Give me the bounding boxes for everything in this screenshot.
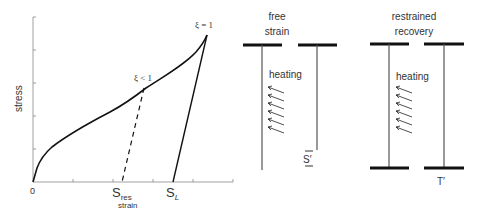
y-axis-label: stress	[13, 85, 24, 112]
free-strain-schematic: free strain heating S′	[243, 11, 337, 170]
loading-curve	[33, 35, 207, 182]
heating-label: heating	[269, 69, 302, 80]
origin-label: 0	[30, 186, 35, 196]
t-prime-label: T′	[437, 176, 445, 187]
heating-arrows-icon	[396, 86, 412, 133]
s-l-label: SL	[166, 185, 179, 202]
strain-axis-label: strain	[118, 201, 138, 210]
diagram-canvas: stress 0 ξ < 1 ξ = 1 Sres strain SL free…	[0, 0, 478, 214]
xi-less-than-1-label: ξ < 1	[134, 73, 152, 83]
restrained-recovery-title-line1: restrained	[392, 11, 436, 22]
restrained-recovery-title-line2: recovery	[395, 26, 433, 37]
xi-equals-1-label: ξ = 1	[195, 20, 213, 30]
heating-label: heating	[396, 71, 429, 82]
s-res-label: Sres	[112, 185, 132, 202]
restrained-recovery-schematic: restrained recovery heating T′	[370, 11, 464, 187]
free-strain-title-line2: strain	[265, 26, 289, 37]
heating-arrows-icon	[268, 86, 284, 133]
s-prime-label: S′	[303, 154, 312, 165]
free-strain-title-line1: free	[268, 11, 286, 22]
